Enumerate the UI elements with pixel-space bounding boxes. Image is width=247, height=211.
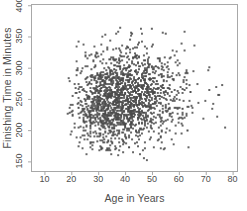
y-tick-label-text: 350 (14, 29, 24, 44)
x-axis-title: Age in Years (31, 192, 238, 204)
x-tick-label: 40 (113, 174, 137, 184)
x-tick-label: 50 (140, 174, 164, 184)
y-tick-label-text: 250 (14, 91, 24, 106)
scatter-plot-figure: Finishing Time in Minutes 15020025030035… (0, 0, 247, 211)
y-tick-label: 400 (8, 0, 30, 10)
x-axis-tick-labels: 1020304050607080 (0, 174, 247, 190)
y-tick-label-text: 150 (14, 154, 24, 169)
plot-area (31, 4, 238, 172)
scatter-points-canvas (32, 5, 237, 171)
x-tick-label: 10 (32, 174, 56, 184)
y-tick-label-text: 300 (14, 60, 24, 75)
y-tick-label: 300 (8, 63, 30, 73)
x-tick-label: 60 (167, 174, 191, 184)
y-axis-tick-labels: 150200250300350400 (6, 0, 30, 180)
y-tick-label: 250 (8, 94, 30, 104)
y-tick-label-text: 400 (14, 0, 24, 13)
x-tick-label: 30 (86, 174, 110, 184)
y-tick-label: 150 (8, 156, 30, 166)
y-tick-label: 200 (8, 125, 30, 135)
y-tick-label: 350 (8, 31, 30, 41)
x-tick-label: 80 (221, 174, 245, 184)
x-tick-label: 70 (194, 174, 218, 184)
x-tick-label: 20 (59, 174, 83, 184)
y-tick-label-text: 200 (14, 123, 24, 138)
